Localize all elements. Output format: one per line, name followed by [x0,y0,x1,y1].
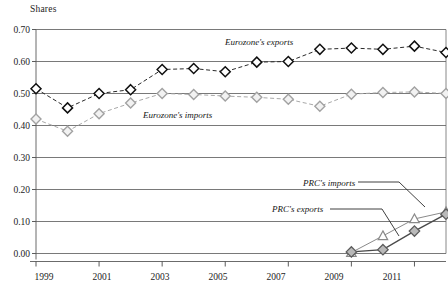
data-point-marker [346,43,356,53]
data-point-marker [346,89,356,99]
data-point-marker [378,88,388,98]
series-line [36,46,446,108]
data-point-marker [157,65,167,75]
plot-area [0,0,448,290]
leader-line-prc-imports [358,182,425,207]
data-point-marker [441,48,448,58]
data-point-marker [63,126,73,136]
data-point-marker [315,101,325,111]
data-point-marker [94,109,104,119]
data-point-marker [252,57,262,67]
data-point-marker [31,84,41,94]
data-point-marker [315,44,325,54]
series-line [351,214,446,252]
series-eurozone-s-exports [31,41,448,113]
data-point-marker [283,57,293,67]
data-point-marker [189,89,199,99]
data-point-marker [378,44,388,54]
series-line [351,212,446,253]
data-point-marker [220,67,230,77]
data-point-marker [189,64,199,74]
chart-figure: Shares 0.70 0.60 0.50 0.40 0.30 0.20 0.1… [0,0,448,290]
data-point-marker [63,103,73,113]
data-point-marker [94,89,104,99]
data-point-marker [441,89,448,99]
data-point-marker [378,231,388,240]
data-point-marker [31,114,41,124]
data-point-marker [409,226,419,236]
data-point-marker [409,87,419,97]
series-eurozone-s-imports [31,87,448,136]
data-point-marker [409,41,419,51]
data-point-marker [157,89,167,99]
annotation-leader-lines [330,182,425,236]
data-point-marker [220,91,230,101]
leader-line-prc-exports [330,209,399,236]
data-point-marker [441,209,448,219]
series-prc-s-imports [347,207,448,256]
data-point-marker [126,98,136,108]
data-point-marker [283,94,293,104]
